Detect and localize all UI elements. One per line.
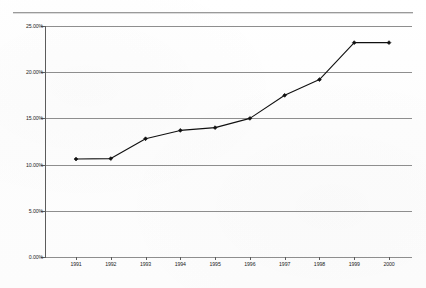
series-markers [74, 41, 391, 161]
data-point-marker [213, 126, 217, 130]
series-line [76, 43, 389, 159]
data-point-marker [178, 129, 182, 133]
line-chart: 0.00%5.00%10.00%15.00%20.00%25.00% 19911… [0, 0, 426, 288]
data-point-marker [387, 41, 391, 45]
data-series-layer [0, 0, 426, 288]
data-point-marker [74, 157, 78, 161]
chart-page: 0.00%5.00%10.00%15.00%20.00%25.00% 19911… [0, 0, 426, 288]
